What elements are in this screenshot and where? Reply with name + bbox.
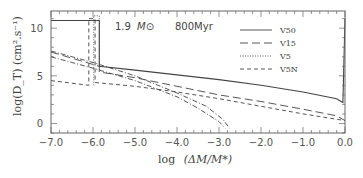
x-tick-label: −7.0 — [39, 137, 63, 148]
legend-label-v15: V15 — [279, 39, 296, 48]
annotation-mass: 1.9 M⊙ — [115, 21, 154, 32]
x-axis-title: log (ΔM/M*) — [158, 153, 232, 166]
series-line-dot-dash-1 — [51, 57, 225, 128]
legend-label-v5: V5 — [279, 52, 291, 61]
y-tick-label: 5 — [37, 71, 43, 82]
y-tick-label: 10 — [30, 23, 43, 34]
x-tick-label: −3.0 — [207, 137, 231, 148]
x-axis-title-log: log — [158, 153, 175, 166]
chart: −7.0−6.0−5.0−4.0−3.0−2.0−1.00.0 0510 log… — [0, 0, 363, 178]
plot-lines — [51, 16, 345, 128]
series-line-dot-dash-2 — [51, 51, 230, 128]
x-tick-label: 0.0 — [337, 137, 353, 148]
x-axis-tick-labels: −7.0−6.0−5.0−4.0−3.0−2.0−1.00.0 — [39, 137, 353, 148]
y-axis-tick-labels: 0510 — [30, 23, 43, 129]
legend: V50V15V5V5N — [240, 26, 298, 74]
series-line-v5n — [51, 19, 345, 121]
x-tick-label: −5.0 — [123, 137, 147, 148]
legend-label-v50: V50 — [279, 26, 296, 35]
x-tick-label: −4.0 — [165, 137, 189, 148]
series-line-v5 — [94, 16, 100, 86]
legend-label-v5n: V5N — [279, 65, 298, 74]
x-tick-label: −2.0 — [249, 137, 273, 148]
x-axis-title-expr: (ΔM/M*) — [184, 153, 232, 166]
y-tick-label: 0 — [37, 118, 43, 129]
annotation-age: 800Myr — [175, 21, 214, 32]
x-tick-label: −6.0 — [81, 137, 105, 148]
y-axis-title: log(D_T) (cm².s⁻¹) — [11, 16, 24, 116]
x-tick-label: −1.0 — [291, 137, 315, 148]
